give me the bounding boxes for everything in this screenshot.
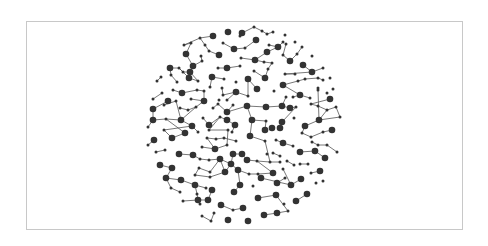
graph-node-small <box>232 209 235 212</box>
graph-node-small <box>213 212 216 215</box>
graph-node-small <box>267 68 270 71</box>
graph-node-small <box>182 200 185 203</box>
graph-node-large <box>231 189 238 196</box>
graph-node-small <box>170 187 173 190</box>
graph-node-large <box>253 37 260 44</box>
graph-node-small <box>161 92 164 95</box>
graph-node-small <box>282 168 285 171</box>
graph-node-small <box>170 74 173 77</box>
graph-node-small <box>336 151 339 154</box>
graph-node-large <box>288 182 295 189</box>
graph-node-small <box>279 161 282 164</box>
graph-node-large <box>287 58 294 65</box>
graph-node-small <box>190 98 193 101</box>
graph-edge <box>305 78 318 79</box>
graph-node-small <box>206 137 209 140</box>
graph-node-large <box>327 96 334 103</box>
graph-node-small <box>231 131 234 134</box>
graph-node-large <box>167 65 174 72</box>
graph-edge <box>336 107 340 117</box>
graph-node-small <box>183 44 186 47</box>
graph-node-small <box>198 167 201 170</box>
graph-node-small <box>235 81 238 84</box>
graph-node-large <box>322 155 329 162</box>
graph-node-large <box>189 123 196 130</box>
graph-node-large <box>225 217 232 224</box>
graph-node-small <box>208 129 211 132</box>
graph-node-large <box>287 105 294 112</box>
graph-node-small <box>301 132 304 135</box>
graph-node-small <box>178 67 181 70</box>
graph-node-small <box>293 164 296 167</box>
graph-node-large <box>201 98 208 105</box>
graph-node-large <box>232 122 239 129</box>
graph-node-small <box>182 71 185 74</box>
graph-node-small <box>209 86 212 89</box>
graph-node-small <box>209 176 212 179</box>
graph-node-large <box>244 103 251 110</box>
graph-node-large <box>182 130 189 137</box>
graph-node-small <box>284 34 287 37</box>
graph-node-small <box>204 44 207 47</box>
graph-node-large <box>205 197 212 204</box>
graph-node-small <box>147 144 150 147</box>
graph-node-small <box>253 70 256 73</box>
graph-node-small <box>248 173 251 176</box>
graph-node-small <box>322 79 325 82</box>
graph-node-large <box>165 98 172 105</box>
graph-node-small <box>285 43 288 46</box>
graph-node-small <box>223 137 226 140</box>
graph-edge <box>153 93 162 99</box>
graph-node-large <box>279 119 286 126</box>
graph-node-small <box>239 35 242 38</box>
graph-node-small <box>266 153 269 156</box>
graph-node-small <box>317 105 320 108</box>
graph-node-large <box>187 69 194 76</box>
graph-node-large <box>192 182 199 189</box>
graph-node-large <box>329 127 336 134</box>
graph-node-small <box>297 80 300 83</box>
graph-node-small <box>221 87 224 90</box>
graph-node-large <box>176 151 183 158</box>
graph-node-large <box>239 151 246 158</box>
graph-node-large <box>186 75 193 82</box>
graph-node-small <box>172 89 175 92</box>
graph-node-small <box>257 173 260 176</box>
graph-node-large <box>297 92 304 99</box>
graph-node-large <box>150 117 157 124</box>
graph-node-small <box>179 191 182 194</box>
graph-node-large <box>262 127 269 134</box>
graph-node-small <box>205 187 208 190</box>
graph-node-small <box>164 149 167 152</box>
graph-node-small <box>155 151 158 154</box>
graph-node-large <box>244 157 251 164</box>
graph-node-small <box>252 185 255 188</box>
graph-node-small <box>292 96 295 99</box>
graph-node-large <box>183 51 190 58</box>
graph-node-small <box>322 67 325 70</box>
graph-edge <box>257 161 270 162</box>
graph-node-small <box>226 99 229 102</box>
graph-node-large <box>274 180 281 187</box>
graph-node-small <box>263 61 266 64</box>
graph-node-small <box>208 50 211 53</box>
graph-node-small <box>212 107 215 110</box>
graph-node-small <box>326 92 329 95</box>
graph-node-large <box>240 205 247 212</box>
graph-node-large <box>309 69 316 76</box>
graph-edge <box>327 145 337 152</box>
graph-node-small <box>285 96 288 99</box>
graph-node-small <box>317 144 320 147</box>
graph-node-large <box>224 65 231 72</box>
graph-node-small <box>201 60 204 63</box>
graph-node-small <box>163 104 166 107</box>
graph-node-small <box>187 109 190 112</box>
graph-node-small <box>293 117 296 120</box>
graph-node-large <box>277 125 284 132</box>
graph-node-small <box>199 158 202 161</box>
graph-node-large <box>231 46 238 53</box>
graph-node-large <box>298 176 305 183</box>
graph-node-large <box>206 122 213 129</box>
graph-node-large <box>297 149 304 156</box>
graph-node-small <box>292 145 295 148</box>
